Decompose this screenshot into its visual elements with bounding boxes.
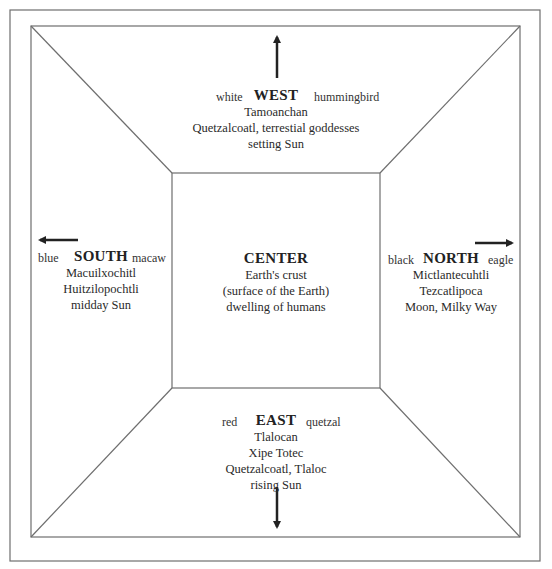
south-line-3: midday Sun [36,297,166,313]
west-animal: hummingbird [314,89,379,105]
north-animal: eagle [488,252,513,268]
south-color: blue [38,250,59,266]
south-region: blue SOUTH macaw Macuilxochitl Huitzilop… [36,248,166,313]
north-line-3: Moon, Milky Way [384,299,518,315]
diagonal-top-left [31,26,172,173]
center-region: CENTER Earth's crust (surface of the Ear… [176,250,376,315]
south-line-1: Macuilxochitl [36,265,166,281]
north-color: black [388,252,414,268]
center-line-3: dwelling of humans [176,299,376,315]
south-title: SOUTH [74,248,128,264]
east-line-4: rising Sun [176,477,376,493]
west-region: white WEST hummingbird Tamoanchan Quetza… [176,87,376,152]
east-title: EAST [256,412,296,428]
west-line-3: setting Sun [176,136,376,152]
east-animal: quetzal [306,414,341,430]
center-line-1: Earth's crust [176,267,376,283]
diagonal-top-right [380,26,520,173]
west-line-2: Quetzalcoatl, terrestial goddesses [176,120,376,136]
diagonal-bottom-right [380,388,520,537]
west-line-1: Tamoanchan [176,104,376,120]
east-color: red [222,414,237,430]
north-title: NORTH [423,250,479,266]
east-line-1: Tlalocan [176,429,376,445]
diagonal-bottom-left [31,388,172,537]
south-animal: macaw [132,250,166,266]
south-line-2: Huitzilopochtli [36,281,166,297]
east-line-3: Quetzalcoatl, Tlaloc [176,461,376,477]
north-line-1: Mictlantecuhtli [384,267,518,283]
west-title: WEST [254,87,299,103]
north-line-2: Tezcatlipoca [384,283,518,299]
east-region: red EAST quetzal Tlalocan Xipe Totec Que… [176,412,376,493]
center-title: CENTER [244,250,308,266]
east-line-2: Xipe Totec [176,445,376,461]
north-region: black NORTH eagle Mictlantecuhtli Tezcat… [384,250,518,315]
west-color: white [216,89,243,105]
center-line-2: (surface of the Earth) [176,283,376,299]
